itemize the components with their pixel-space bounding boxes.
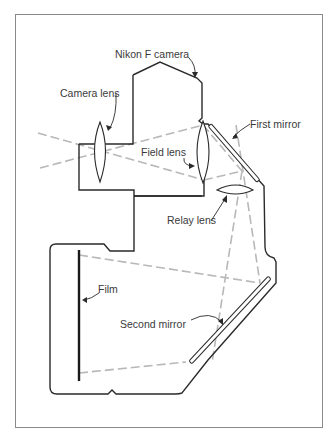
camera-body-lower-edge [134, 180, 204, 196]
label-first-mirror: First mirror [250, 118, 301, 130]
light-rays [38, 125, 260, 373]
optical-diagram: Nikon F camera Camera lens Field lens Fi… [0, 0, 334, 443]
label-second-mirror: Second mirror [120, 318, 186, 330]
camera-lens [95, 122, 106, 182]
label-nikon-f-camera: Nikon F camera [115, 48, 189, 60]
camera-body-outline [50, 62, 276, 394]
second-mirror [189, 276, 271, 364]
relay-lens [217, 185, 253, 194]
label-film: Film [98, 283, 118, 295]
label-camera-lens: Camera lens [60, 87, 120, 99]
label-relay-lens: Relay lens [167, 214, 216, 226]
label-field-lens: Field lens [141, 146, 186, 158]
